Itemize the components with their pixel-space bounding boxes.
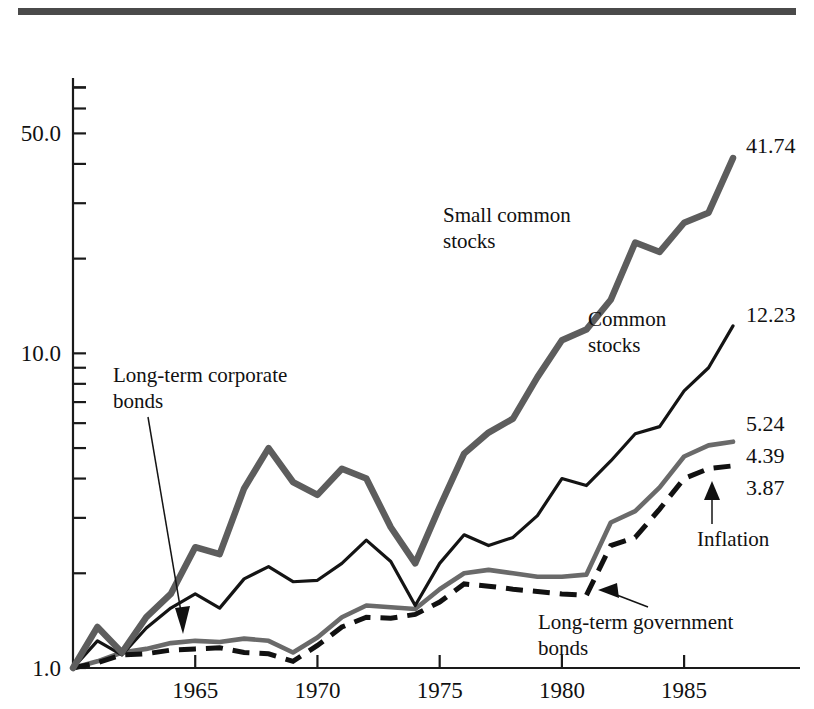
label-inflation: Inflation	[697, 527, 770, 551]
top-rule-bar	[18, 8, 796, 15]
label-corporate-bonds-line1: Long-term corporate	[113, 363, 287, 387]
x-axis-tick-label: 1965	[172, 678, 218, 703]
y-axis-ticks	[73, 87, 86, 668]
series-small-common-stocks	[73, 158, 733, 668]
x-axis-ticks	[195, 655, 684, 668]
label-small-common-stocks-line1: Small common	[443, 203, 571, 227]
x-axis-tick-label: 1975	[417, 678, 463, 703]
label-common-stocks-line1: Common	[588, 307, 667, 331]
y-axis-tick-label: 10.0	[21, 341, 61, 366]
end-label-inflation: 3.87	[746, 475, 785, 500]
label-corporate-bonds-line2: bonds	[113, 389, 163, 413]
arrow-head-inflation	[704, 481, 720, 500]
label-common-stocks-line2: stocks	[588, 333, 641, 357]
end-label-small-common-stocks: 41.74	[746, 133, 796, 158]
x-axis-tick-label: 1980	[539, 678, 585, 703]
label-government-bonds-line1: Long-term government	[538, 610, 734, 634]
end-label-government-bonds: 4.39	[746, 443, 785, 468]
end-label-corporate-bonds: 5.24	[746, 411, 785, 436]
x-axis-tick-labels: 19651970197519801985	[172, 678, 707, 703]
data-series-group	[73, 158, 733, 668]
end-value-labels: 41.74 12.23 5.24 4.39 3.87	[746, 133, 796, 500]
x-axis-tick-label: 1985	[661, 678, 707, 703]
x-axis-tick-label: 1970	[294, 678, 340, 703]
y-axis-tick-labels: 50.010.01.0	[21, 121, 61, 681]
y-axis-tick-label: 50.0	[21, 121, 61, 146]
arrow-head-government-bonds	[598, 583, 619, 598]
series-long-term-government-bonds	[73, 466, 733, 668]
series-annotations: Small common stocks Common stocks Long-t…	[113, 203, 770, 660]
arrow-head-corporate-bonds	[175, 606, 190, 634]
log-scale-line-chart: 50.010.01.0 19651970197519801985 41.74 1…	[0, 0, 814, 709]
leader-line-corporate-bonds	[148, 417, 181, 612]
label-government-bonds-line2: bonds	[538, 636, 588, 660]
chart-figure: 50.010.01.0 19651970197519801985 41.74 1…	[0, 0, 814, 709]
y-axis-tick-label: 1.0	[32, 656, 61, 681]
label-small-common-stocks-line2: stocks	[443, 229, 496, 253]
end-label-common-stocks: 12.23	[746, 302, 796, 327]
